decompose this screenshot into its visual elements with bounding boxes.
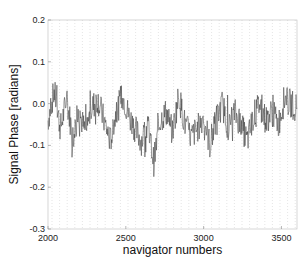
y-axis-title: Signal Phase [radians]: [7, 64, 21, 184]
series-group: [48, 82, 297, 177]
x-tick-label: 3000: [194, 233, 214, 243]
x-tick-label: 3500: [271, 233, 291, 243]
y-tick-label: 0.0: [32, 99, 45, 109]
series-line: [48, 82, 297, 177]
x-tick-label: 2500: [116, 233, 136, 243]
x-axis-title: navigator numbers: [123, 243, 222, 257]
x-axis: 2000250030003500: [38, 226, 291, 243]
x-tick-label: 2000: [38, 233, 58, 243]
y-tick-label: 0.1: [32, 57, 45, 67]
y-tick-label: 0.2: [32, 15, 45, 25]
signal-phase-chart: 0.20.10.0-0.1-0.2-0.3 2000250030003500 n…: [0, 0, 307, 263]
y-tick-label: -0.2: [29, 182, 45, 192]
y-tick-label: -0.1: [29, 140, 45, 150]
